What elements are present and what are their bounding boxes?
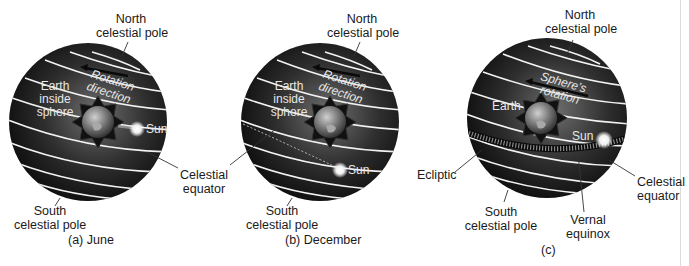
sun-icon [332, 162, 348, 178]
sun-icon [129, 121, 145, 137]
label-south-pole-a: South celestial pole [14, 204, 86, 232]
label-north-pole-a: North celestial pole [96, 12, 166, 40]
label-equator-a: Celestial equator [178, 168, 230, 196]
label-vernal-equinox: Vernal equinox [563, 213, 613, 241]
label-sun-c: Sun [572, 130, 593, 143]
label-sun-a: Sun [146, 123, 167, 136]
earth-icon [82, 106, 114, 138]
earth-icon [314, 106, 346, 138]
sphere-ecliptic [455, 38, 635, 212]
caption-b: (b) December [285, 233, 361, 247]
label-south-pole-c: South celestial pole [461, 205, 541, 233]
label-south-pole-b: South celestial pole [246, 204, 318, 232]
label-north-pole-c: North celestial pole [545, 8, 615, 36]
page-edge-divider [680, 0, 681, 266]
label-equator-c: Celestial equator [637, 175, 685, 203]
sphere-december [230, 42, 404, 206]
label-north-pole-b: North celestial pole [327, 12, 397, 40]
sun-icon [595, 131, 613, 149]
label-earth-a: Earth inside sphere [30, 80, 80, 119]
label-ecliptic: Ecliptic [417, 168, 457, 182]
earth-icon [525, 102, 557, 134]
caption-c: (c) [541, 243, 556, 257]
label-earth-b: Earth inside sphere [264, 80, 314, 119]
label-sun-b: Sun [348, 164, 369, 177]
caption-a: (a) June [68, 233, 114, 247]
label-earth-c: Earth [492, 100, 521, 113]
